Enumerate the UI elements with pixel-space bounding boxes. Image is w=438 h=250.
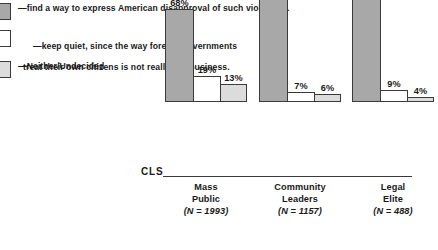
bar-value-label: 68% xyxy=(170,0,189,8)
bar-group-caption: LegalElite(N = 488) xyxy=(348,182,438,218)
bar[interactable]: 7% xyxy=(287,92,315,102)
bar[interactable]: 4% xyxy=(407,97,434,102)
bar-group-name-line1: Mass xyxy=(194,182,217,192)
bar[interactable]: 87% xyxy=(259,0,288,102)
bar-group-bars: 87%7%6% xyxy=(259,0,340,102)
bar[interactable]: 6% xyxy=(314,94,341,102)
bar-group-name-line1: Legal xyxy=(381,182,406,192)
bar[interactable]: 19% xyxy=(193,76,221,102)
bar-group-sample-size: (N = 1157) xyxy=(255,206,345,218)
axis-baseline-label: CLS xyxy=(141,166,163,177)
bar-value-label: 6% xyxy=(321,83,334,93)
bar-group-sample-size: (N = 1993) xyxy=(161,206,251,218)
bar-group-bars: 87%9%4% xyxy=(352,0,433,102)
bar-value-label: 9% xyxy=(387,79,400,89)
bar-group-sample-size: (N = 488) xyxy=(348,206,438,218)
bar-value-label: 19% xyxy=(198,65,217,75)
bar[interactable]: 13% xyxy=(220,84,247,102)
bar[interactable]: 9% xyxy=(380,90,408,102)
bar-group-name-line2: Leaders xyxy=(255,194,345,206)
bar-value-label: 7% xyxy=(294,81,307,91)
bar-group-bars: 68%19%13% xyxy=(165,9,246,102)
bar[interactable]: 87% xyxy=(352,0,381,102)
bar[interactable]: 68% xyxy=(165,9,194,102)
axis-baseline xyxy=(163,176,412,177)
bar-value-label: 13% xyxy=(224,73,243,83)
bar-group-name-line1: Community xyxy=(274,182,325,192)
bar-group-name-line2: Elite xyxy=(348,194,438,206)
bar-group-caption: MassPublic(N = 1993) xyxy=(161,182,251,218)
bar-value-label: 4% xyxy=(414,86,427,96)
bar-group-name-line2: Public xyxy=(161,194,251,206)
bar-group-caption: CommunityLeaders(N = 1157) xyxy=(255,182,345,218)
